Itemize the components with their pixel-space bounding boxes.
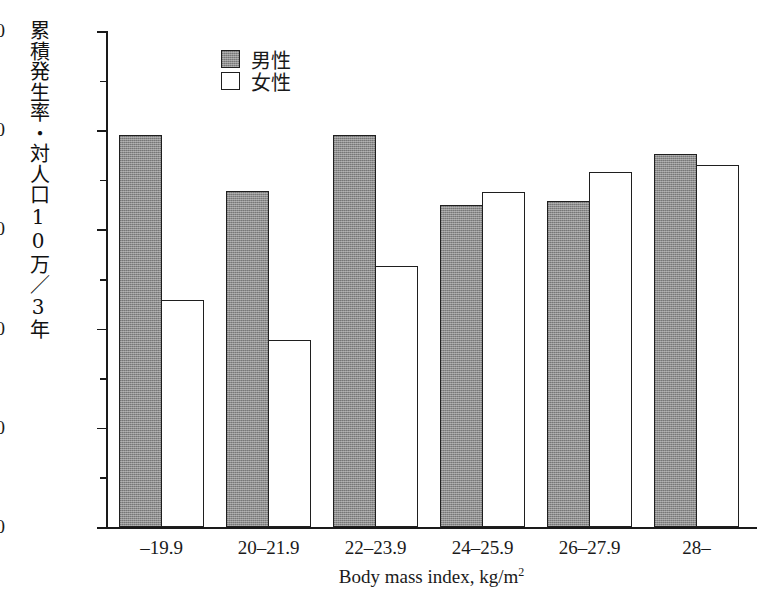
- x-axis-title: Body mass index, kg/m2: [106, 565, 757, 588]
- x-tick-label: 22–23.9: [323, 537, 428, 559]
- x-tick-label: –19.9: [109, 537, 214, 559]
- y-tick-major: [97, 229, 107, 231]
- bar-group: 20–21.9: [226, 31, 324, 527]
- x-tick-label: 28–: [644, 537, 749, 559]
- x-axis-title-text: Body mass index, kg/m: [339, 566, 518, 587]
- legend-item-female: 女性: [221, 70, 291, 92]
- y-tick-label: 0: [0, 516, 5, 538]
- y-tick-minor: [100, 378, 107, 380]
- legend-swatch-female-icon: [221, 72, 240, 90]
- bar-female: [482, 192, 525, 527]
- y-tick-minor: [100, 477, 107, 479]
- x-tick-label: 24–25.9: [430, 537, 535, 559]
- bar-group: 24–25.9: [440, 31, 538, 527]
- bar-female: [268, 340, 311, 527]
- x-axis-line: [106, 527, 757, 529]
- y-tick-label: 200: [0, 417, 5, 439]
- y-tick-minor: [100, 279, 107, 281]
- y-tick-major: [97, 428, 107, 430]
- y-tick-label: 600: [0, 218, 5, 240]
- bar-chart-figure: 累積発生率・対人口10万／3年 1000 800 600 400 200 0 –…: [0, 0, 769, 612]
- legend-label-female: 女性: [251, 67, 291, 96]
- y-tick-major: [97, 329, 107, 331]
- y-tick-label: 400: [0, 318, 5, 340]
- bar-male: [119, 135, 162, 527]
- plot-area: 1000 800 600 400 200 0 –19.9 20–21.9: [106, 31, 757, 527]
- bar-group: 26–27.9: [547, 31, 645, 527]
- legend-swatch-male-icon: [221, 50, 240, 68]
- y-tick-major: [97, 31, 107, 33]
- x-tick-label: 20–21.9: [216, 537, 321, 559]
- y-tick-minor: [100, 180, 107, 182]
- bar-group: 22–23.9: [333, 31, 431, 527]
- y-axis-title: 累積発生率・対人口10万／3年: [14, 20, 48, 370]
- x-axis-title-exponent: 2: [518, 565, 524, 579]
- bar-female: [696, 165, 739, 527]
- y-tick-label: 1000: [0, 20, 5, 42]
- bar-male: [226, 191, 269, 527]
- bar-male: [440, 205, 483, 527]
- bar-male: [333, 135, 376, 527]
- bar-female: [589, 172, 632, 527]
- y-tick-minor: [100, 81, 107, 83]
- x-tick-label: 26–27.9: [537, 537, 642, 559]
- y-tick-major: [97, 130, 107, 132]
- bar-female: [161, 300, 204, 527]
- bar-male: [547, 201, 590, 527]
- y-tick-label: 800: [0, 119, 5, 141]
- bar-group: 28–: [654, 31, 752, 527]
- bar-female: [375, 266, 418, 527]
- y-tick-major: [97, 527, 107, 529]
- bar-group: –19.9: [119, 31, 217, 527]
- bar-male: [654, 154, 697, 527]
- legend: 男性 女性: [221, 48, 291, 92]
